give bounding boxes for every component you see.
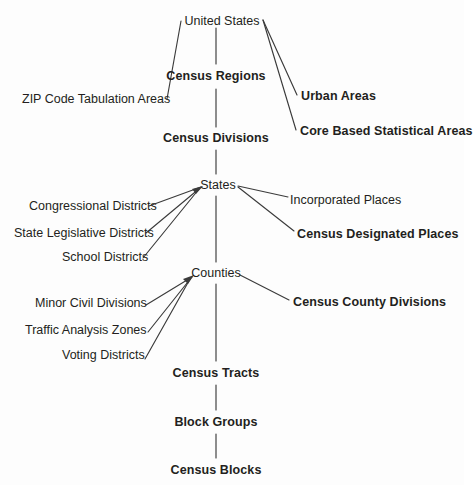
node-counties[interactable]: Counties (191, 266, 240, 280)
edge-united-states-urban-areas (263, 20, 297, 95)
edge-voting-districts-counties (145, 279, 190, 359)
node-census-designated-places[interactable]: Census Designated Places (297, 227, 459, 241)
edge-united-states-core-based-statistical-areas (263, 20, 296, 130)
node-traffic-analysis-zones[interactable]: Traffic Analysis Zones (25, 323, 147, 337)
node-minor-civil-divisions[interactable]: Minor Civil Divisions (35, 296, 147, 310)
node-school-districts[interactable]: School Districts (62, 250, 148, 264)
edge-traffic-analysis-zones-counties (148, 278, 191, 332)
edge-states-census-designated-places (238, 187, 294, 231)
node-census-county-divisions[interactable]: Census County Divisions (293, 295, 446, 309)
edge-minor-civil-divisions-counties (146, 277, 192, 305)
node-state-legislative-districts[interactable]: State Legislative Districts (14, 226, 154, 240)
edge-states-incorporated-places (238, 186, 288, 197)
node-block-groups[interactable]: Block Groups (174, 415, 257, 429)
edge-counties-census-county-divisions (240, 275, 289, 300)
node-census-tracts[interactable]: Census Tracts (173, 366, 260, 380)
node-urban-areas[interactable]: Urban Areas (301, 89, 376, 103)
node-voting-districts[interactable]: Voting Districts (62, 348, 145, 362)
node-incorporated-places[interactable]: Incorporated Places (290, 193, 401, 207)
node-census-regions[interactable]: Census Regions (166, 69, 265, 83)
node-census-divisions[interactable]: Census Divisions (163, 131, 269, 145)
node-united-states[interactable]: United States (184, 14, 259, 28)
node-core-based-statistical-areas[interactable]: Core Based Statistical Areas (300, 124, 473, 138)
node-states[interactable]: States (200, 178, 235, 192)
node-congressional-districts[interactable]: Congressional Districts (29, 199, 157, 213)
node-zip-code-tabulation-areas[interactable]: ZIP Code Tabulation Areas (22, 92, 170, 106)
edge-united-states-zip-code-tabulation-areas (167, 21, 181, 99)
node-census-blocks[interactable]: Census Blocks (171, 463, 262, 477)
